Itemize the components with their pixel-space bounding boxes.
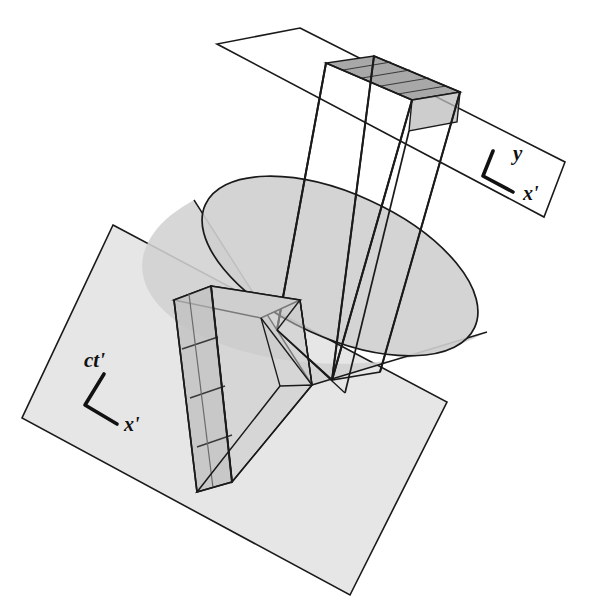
axis-label-x-prime-lower: x' [123,413,140,435]
relativity-light-cone-diagram: y x' ct' x' [0,0,592,615]
axis-label-x-prime-upper: x' [522,182,539,204]
figure-root: y x' ct' x' [0,0,592,615]
axis-label-ct-prime: ct' [84,348,105,372]
